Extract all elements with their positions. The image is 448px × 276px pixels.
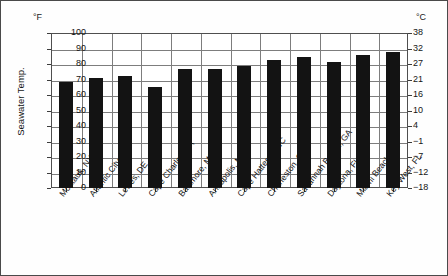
y-tick-label-celsius: −12 bbox=[413, 168, 443, 177]
y-tick-label-fahrenheit: 50 bbox=[60, 106, 86, 115]
y-tick-label-fahrenheit: 70 bbox=[60, 75, 86, 84]
y-tick-mark-left bbox=[47, 142, 51, 143]
y-tick-mark-right bbox=[408, 64, 412, 65]
y-tick-label-fahrenheit: 100 bbox=[60, 28, 86, 37]
y-tick-mark-left bbox=[47, 111, 51, 112]
y-tick-mark-left bbox=[47, 64, 51, 65]
bar bbox=[208, 69, 222, 188]
y-tick-mark-left bbox=[47, 49, 51, 50]
bar bbox=[89, 78, 103, 188]
y-tick-label-fahrenheit: 90 bbox=[60, 44, 86, 53]
y-tick-label-celsius: 10 bbox=[413, 106, 443, 115]
y-tick-label-celsius: −1 bbox=[413, 137, 443, 146]
bar bbox=[297, 57, 311, 188]
y-tick-label-fahrenheit: 40 bbox=[60, 121, 86, 130]
bar bbox=[356, 55, 370, 188]
bar bbox=[237, 66, 251, 188]
y-tick-mark-left bbox=[47, 95, 51, 96]
bar bbox=[118, 76, 132, 188]
y-tick-mark-right bbox=[408, 188, 412, 189]
y-tick-mark-right bbox=[408, 95, 412, 96]
bar bbox=[386, 52, 400, 188]
y-tick-mark-right bbox=[408, 111, 412, 112]
seawater-temperature-bar-chart: °F °C Seawater Temp. 1003890328027702160… bbox=[0, 0, 448, 276]
y-tick-mark-right bbox=[408, 80, 412, 81]
y-tick-mark-right bbox=[408, 33, 412, 34]
bar bbox=[267, 60, 281, 188]
y-tick-mark-right bbox=[408, 142, 412, 143]
y-tick-mark-left bbox=[47, 173, 51, 174]
left-axis-unit-label: °F bbox=[33, 12, 42, 22]
y-tick-label-fahrenheit: 60 bbox=[60, 90, 86, 99]
bar bbox=[178, 69, 192, 188]
y-tick-label-celsius: 38 bbox=[413, 28, 443, 37]
bar bbox=[327, 62, 341, 188]
y-tick-label-celsius: −18 bbox=[413, 183, 443, 192]
y-tick-mark-right bbox=[408, 49, 412, 50]
y-tick-label-celsius: 27 bbox=[413, 59, 443, 68]
y-tick-mark-left bbox=[47, 157, 51, 158]
y-tick-mark-left bbox=[47, 188, 51, 189]
y-tick-label-celsius: 16 bbox=[413, 90, 443, 99]
y-tick-mark-left bbox=[47, 80, 51, 81]
y-tick-label-fahrenheit: 30 bbox=[60, 137, 86, 146]
right-axis-unit-label: °C bbox=[416, 12, 426, 22]
y-axis-title: Seawater Temp. bbox=[15, 52, 26, 152]
y-tick-mark-right bbox=[408, 126, 412, 127]
y-tick-label-celsius: 32 bbox=[413, 44, 443, 53]
y-tick-mark-left bbox=[47, 33, 51, 34]
y-tick-label-fahrenheit: 80 bbox=[60, 59, 86, 68]
y-tick-mark-left bbox=[47, 126, 51, 127]
y-tick-label-celsius: 21 bbox=[413, 75, 443, 84]
y-tick-label-celsius: 4 bbox=[413, 121, 443, 130]
